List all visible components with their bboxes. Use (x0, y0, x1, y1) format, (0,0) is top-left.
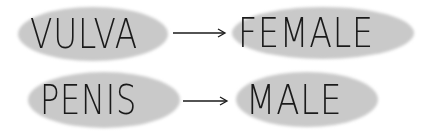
arrow-right-icon (172, 27, 228, 39)
target-label-female: FEMALE (238, 13, 374, 53)
diagram-canvas: VULVA FEMALE PENIS MALE (0, 0, 432, 134)
source-label-penis: PENIS (40, 80, 137, 120)
source-label-vulva: VULVA (30, 14, 138, 54)
arrow-right-icon (182, 95, 230, 107)
target-label-male: MALE (246, 80, 342, 120)
